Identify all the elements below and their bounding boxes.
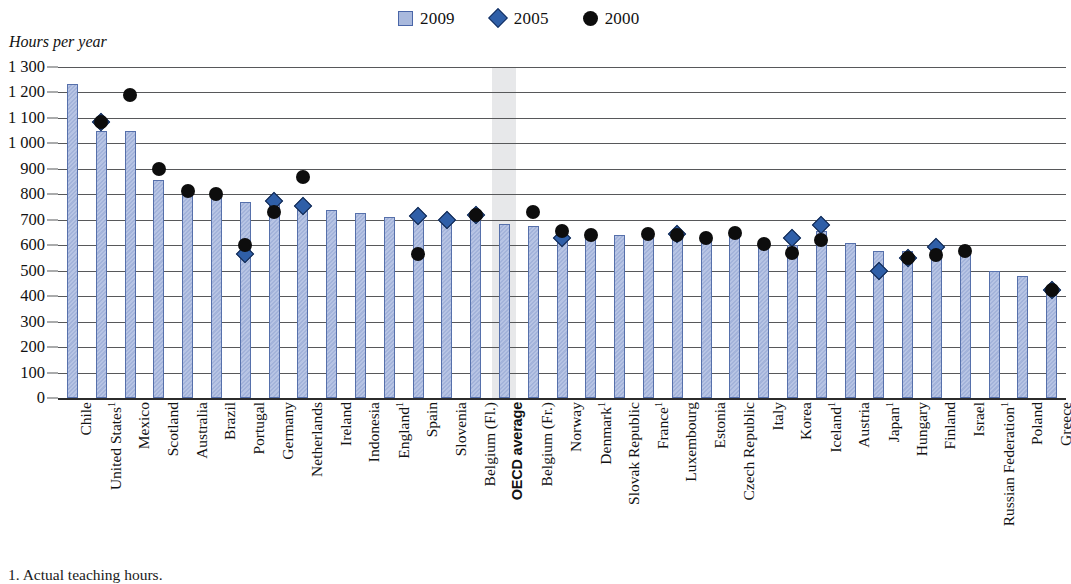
bar-2009	[931, 247, 942, 398]
x-axis-label-israel: Israel	[971, 402, 987, 562]
y-tick-label: 900	[20, 159, 45, 179]
circle-marker-2000	[526, 205, 540, 219]
x-axis-label-france: France1	[654, 402, 671, 562]
legend-item-2000: 2000	[583, 10, 640, 27]
bar-2009	[960, 251, 971, 398]
y-tick-label: 1 300	[8, 57, 45, 77]
x-axis-label-greece: Greece	[1058, 402, 1071, 562]
x-label-wrap: Slovak Republic	[626, 402, 642, 562]
circle-marker-2000	[411, 247, 425, 261]
x-axis-label-ireland: Ireland	[338, 402, 354, 562]
y-tick-mark	[47, 347, 58, 348]
x-axis-category-labels: ChileUnited States1MexicoScotlandAustral…	[58, 398, 1066, 558]
x-label-wrap: Russian Federation1	[1000, 402, 1017, 562]
bar-2009	[1046, 291, 1057, 398]
y-tick-mark	[47, 270, 58, 271]
x-label-wrap: Scotland	[165, 402, 181, 562]
bar-2009	[816, 231, 827, 398]
x-label-wrap: Finland	[942, 402, 958, 562]
circle-marker-2000	[238, 238, 252, 252]
bar-2009	[125, 131, 136, 398]
bar-2009	[499, 224, 510, 398]
x-axis-label-italy: Italy	[770, 402, 786, 562]
gridline	[58, 92, 1066, 93]
bar-2009	[787, 245, 798, 398]
y-tick-label: 0	[37, 388, 45, 408]
bar-2009	[413, 216, 424, 398]
x-axis-label-mexico: Mexico	[136, 402, 152, 562]
x-axis-label-hungary: Hungary	[914, 402, 930, 562]
x-label-wrap: Israel	[971, 402, 987, 562]
circle-marker-2000	[1045, 283, 1059, 297]
bar-2009	[470, 215, 481, 398]
circle-marker-2000	[641, 227, 655, 241]
bar-2009	[758, 244, 769, 398]
y-axis-title: Hours per year	[9, 33, 107, 51]
x-axis-label-belgium-fr: Belgium (Fr.)	[539, 402, 555, 562]
y-tick-mark	[47, 143, 58, 144]
chart-footnote: 1. Actual teaching hours.	[8, 566, 163, 584]
circle-marker-2000	[181, 184, 195, 198]
x-label-wrap: Portugal	[251, 402, 267, 562]
x-axis-label-belgium-fl: Belgium (Fl.)	[482, 402, 498, 562]
x-axis-label-denmark: Denmark1	[597, 402, 614, 562]
bar-2009	[902, 251, 913, 398]
bar-2009	[67, 84, 78, 398]
circle-marker-2000	[785, 246, 799, 260]
circle-marker-2000	[584, 228, 598, 242]
x-label-wrap: Austria	[856, 402, 872, 562]
x-axis-label-oecd-average: OECD average	[510, 402, 525, 562]
x-axis-label-england: England1	[395, 402, 412, 562]
y-tick-mark	[47, 92, 58, 93]
x-axis-label-portugal: Portugal	[251, 402, 267, 562]
bar-2009	[528, 226, 539, 398]
x-axis-label-japan: Japan1	[885, 402, 902, 562]
circle-marker-2000	[699, 231, 713, 245]
x-label-wrap: Germany	[280, 402, 296, 562]
circle-marker-2000	[814, 233, 828, 247]
bar-2009	[326, 210, 337, 398]
circle-marker-2000	[152, 162, 166, 176]
x-label-wrap: Poland	[1029, 402, 1045, 562]
square-swatch-icon	[398, 11, 413, 26]
y-tick-mark	[47, 372, 58, 373]
circle-marker-2000	[94, 115, 108, 129]
bar-2009	[614, 235, 625, 398]
x-axis-label-netherlands: Netherlands	[309, 402, 325, 562]
circle-marker-2000	[123, 88, 137, 102]
bar-2009	[729, 234, 740, 398]
x-axis-label-poland: Poland	[1029, 402, 1045, 562]
x-label-wrap: Iceland1	[827, 402, 844, 562]
gridline	[58, 118, 1066, 119]
y-tick-mark	[47, 194, 58, 195]
circle-marker-2000	[209, 187, 223, 201]
y-tick-label: 1 000	[8, 133, 45, 153]
bar-2009	[269, 205, 280, 398]
circle-marker-2000	[296, 170, 310, 184]
circle-marker-icon	[583, 11, 598, 26]
circle-marker-2000	[670, 228, 684, 242]
bar-2009	[672, 235, 683, 398]
bar-2009	[355, 213, 366, 398]
x-label-wrap: Indonesia	[366, 402, 382, 562]
circle-marker-2000	[757, 237, 771, 251]
x-label-wrap: Luxembourg	[683, 402, 699, 562]
y-tick-mark	[47, 117, 58, 118]
x-label-wrap: Australia	[194, 402, 210, 562]
x-label-wrap: Denmark1	[597, 402, 614, 562]
x-label-wrap: Chile	[78, 402, 94, 562]
bar-2009	[240, 202, 251, 398]
x-label-wrap: Belgium (Fr.)	[539, 402, 555, 562]
circle-marker-2000	[728, 226, 742, 240]
y-tick-label: 700	[20, 210, 45, 230]
bar-2009	[297, 207, 308, 398]
plot-area	[58, 67, 1066, 398]
circle-marker-2000	[267, 205, 281, 219]
gridline	[58, 143, 1066, 144]
x-label-wrap: Greece	[1058, 402, 1071, 562]
x-label-wrap: Japan1	[885, 402, 902, 562]
x-label-wrap: Ireland	[338, 402, 354, 562]
x-label-wrap: Italy	[770, 402, 786, 562]
x-axis-label-germany: Germany	[280, 402, 296, 562]
teaching-hours-chart-figure: 200920052000 Hours per year 1 3001 2001 …	[0, 0, 1071, 584]
